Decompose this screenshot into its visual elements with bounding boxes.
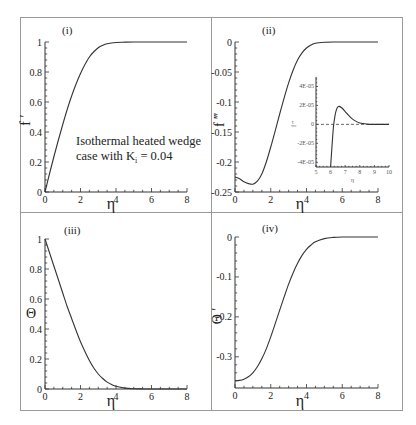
x-tick-label: 6 [149, 391, 154, 402]
x-axis-label: η [296, 195, 304, 213]
y-tick-label: 1 [37, 37, 42, 48]
panel-tag: (ii) [262, 24, 276, 37]
data-curve [331, 106, 389, 167]
x-tick-label: 2 [268, 390, 273, 401]
x-tick-label: 8 [185, 391, 190, 402]
panel-tag: (iv) [262, 222, 278, 235]
y-tick-label: 0.2 [30, 157, 43, 168]
y-tick-label: 1 [37, 234, 42, 245]
y-tick-label: -2E-05 [297, 140, 314, 146]
y-tick-label: 2E-05 [299, 102, 314, 108]
x-axis-label: η [296, 392, 304, 410]
x-tick-label: 0 [233, 390, 238, 401]
x-tick-label: 9 [373, 169, 376, 175]
y-tick-label: 0.4 [30, 324, 43, 335]
x-axis-label: η [107, 195, 115, 213]
x-tick-label: 2 [78, 194, 83, 205]
data-curve [235, 237, 378, 381]
x-tick-label: 8 [376, 194, 381, 205]
x-tick-label: 4 [304, 194, 309, 205]
data-curve [45, 239, 187, 389]
x-tick-label: 6 [340, 194, 345, 205]
y-tick-label: 4E-05 [299, 83, 314, 89]
y-axis-label: Θ [26, 306, 36, 321]
y-tick-label: -4E-05 [297, 159, 314, 165]
x-tick-label: 8 [376, 390, 381, 401]
x-tick-label: 10 [386, 169, 392, 175]
x-tick-label: 7 [344, 169, 347, 175]
y-tick-label: 0.6 [30, 97, 43, 108]
panel-ii-f-triple-prime: 02468-0.25-0.2-0.15-0.1-0.050(ii)ηf ‴ [211, 24, 380, 213]
y-tick-label: -0.05 [211, 67, 232, 78]
x-tick-label: 2 [78, 391, 83, 402]
x-tick-label: 0 [43, 391, 48, 402]
y-tick-label: -0.15 [211, 127, 232, 138]
x-tick-label: 2 [268, 194, 273, 205]
y-tick-label: 0.8 [30, 67, 43, 78]
y-tick-label: 0 [227, 232, 232, 243]
y-tick-label: 0 [311, 121, 314, 127]
y-tick-label: -0.1 [216, 97, 232, 108]
y-tick-label: -0.1 [216, 271, 232, 282]
y-tick-label: 0 [37, 187, 42, 198]
y-axis-label: f ‴ [212, 113, 227, 127]
x-axis-label: η [107, 392, 115, 410]
panel-i-f-prime: 0246800.20.40.60.81(i)ηf ′ [18, 24, 190, 213]
panel-tag: (iii) [64, 224, 81, 237]
x-tick-label: 6 [340, 390, 345, 401]
x-tick-label: 4 [304, 390, 309, 401]
x-tick-label: 0 [43, 194, 48, 205]
x-tick-label: 8 [358, 169, 361, 175]
y-axis-label: f ′ [18, 114, 33, 125]
y-tick-label: -0.3 [216, 351, 232, 362]
y-tick-label: 0 [227, 37, 232, 48]
inset-x-axis-label: η [351, 177, 354, 183]
x-tick-label: 0 [233, 194, 238, 205]
data-curve [45, 42, 187, 192]
x-tick-label: 6 [149, 194, 154, 205]
y-tick-label: 0.2 [30, 354, 43, 365]
y-tick-label: -0.25 [211, 187, 232, 198]
y-tick-label: 0.6 [30, 294, 43, 305]
annotation-line-2: case with Ki = 0.04 [76, 149, 173, 165]
x-tick-label: 8 [185, 194, 190, 205]
panel-iv-theta-prime: 02468-0.3-0.2-0.10(iv)ηΘ ′ [210, 222, 381, 410]
inset-y-axis-label: f ‴ [291, 121, 297, 127]
y-tick-label: 0.8 [30, 264, 43, 275]
x-tick-label: 5 [315, 169, 318, 175]
panel-ii-inset: 5678910-4E-05-2E-0502E-054E-05ηf ‴ [291, 77, 392, 183]
chart-figure-svg: 0246800.20.40.60.81(i)ηf ′ 02468-0.25-0.… [0, 0, 416, 425]
y-tick-label: -0.2 [216, 157, 232, 168]
y-tick-label: 0.4 [30, 127, 43, 138]
figure: 0246800.20.40.60.81(i)ηf ′ 02468-0.25-0.… [0, 0, 416, 425]
y-axis-label: Θ ′ [210, 308, 225, 325]
annotation-line-1: Isothermal heated wedge [76, 134, 201, 148]
x-tick-label: 6 [329, 169, 332, 175]
y-tick-label: 0 [37, 384, 42, 395]
panel-iii-theta: 0246800.20.40.60.81(iii)ηΘ [26, 224, 190, 410]
panel-tag: (i) [62, 24, 73, 37]
